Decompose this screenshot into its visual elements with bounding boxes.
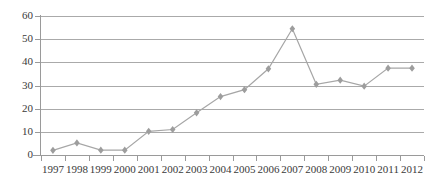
x-axis-tick <box>41 156 42 161</box>
x-axis-tick <box>65 156 66 161</box>
data-point-marker <box>385 65 391 72</box>
data-point-marker <box>194 109 200 116</box>
x-axis-tick-label: 2012 <box>395 163 428 176</box>
data-point-marker <box>361 83 367 90</box>
y-axis-tick <box>35 16 41 17</box>
data-point-marker <box>170 126 176 133</box>
x-axis-tick <box>233 156 234 161</box>
x-axis-tick <box>376 156 377 161</box>
data-point-marker <box>146 128 152 135</box>
x-axis-tick <box>89 156 90 161</box>
data-point-marker <box>50 147 56 154</box>
data-point-marker <box>313 81 319 88</box>
x-axis-tick <box>209 156 210 161</box>
x-axis-tick <box>137 156 138 161</box>
series-line <box>53 29 412 151</box>
y-axis-tick <box>35 39 41 40</box>
x-axis-tick <box>185 156 186 161</box>
x-axis-tick <box>256 156 257 161</box>
x-axis-tick <box>424 156 425 161</box>
x-axis-tick <box>304 156 305 161</box>
data-point-marker <box>122 147 128 154</box>
y-axis-tick <box>35 109 41 110</box>
data-point-marker <box>98 147 104 154</box>
x-axis-tick <box>113 156 114 161</box>
x-axis-tick <box>280 156 281 161</box>
y-axis-tick <box>35 62 41 63</box>
y-axis-tick <box>35 86 41 87</box>
x-axis-tick <box>328 156 329 161</box>
y-axis-tick <box>35 132 41 133</box>
data-point-marker <box>242 86 248 93</box>
data-point-marker <box>337 77 343 84</box>
data-point-marker <box>218 93 224 100</box>
x-axis-tick <box>400 156 401 161</box>
x-axis-tick <box>161 156 162 161</box>
line-chart: 0102030405060 19971998199920002001200220… <box>0 0 428 186</box>
data-point-marker <box>409 65 415 72</box>
x-axis-tick <box>352 156 353 161</box>
x-axis-labels: 1997199819992000200120022003200420052006… <box>0 163 428 183</box>
data-point-marker <box>74 139 80 146</box>
